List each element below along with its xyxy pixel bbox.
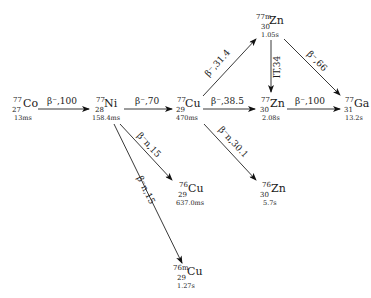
- element-symbol: Zn: [271, 182, 286, 195]
- nuclide-cu76: 76 Cu 29 637.0ms: [175, 181, 215, 211]
- mass-number: 77: [13, 96, 22, 104]
- atomic-number: 30: [260, 106, 269, 114]
- nuclide-zn77: 77 Zn 30 2.08s: [257, 96, 297, 126]
- label-cu77-zn77: β⁻,38.5: [211, 96, 244, 106]
- half-life: 2.08s: [262, 114, 280, 122]
- atomic-number: 28: [95, 106, 104, 114]
- half-life: 13ms: [14, 114, 32, 122]
- nuclide-ga77: 77 Ga 31 13.2s: [342, 96, 371, 126]
- label-zn77-ga77: β⁻,100: [295, 96, 325, 106]
- half-life: 470ms: [176, 114, 198, 122]
- atomic-number: 31: [344, 106, 353, 114]
- mass-number: 77: [261, 96, 270, 104]
- nuclide-ni77: 77 Ni 28 158.4ms: [92, 96, 132, 126]
- atomic-number: 29: [178, 191, 187, 199]
- element-symbol: Co: [23, 97, 38, 110]
- nuclide-cu77: 77 Cu 29 470ms: [174, 96, 214, 126]
- element-symbol: Zn: [270, 97, 285, 110]
- half-life: 637.0ms: [176, 199, 204, 207]
- element-symbol: Ni: [104, 97, 117, 110]
- arrow-zn77m-ga77: [284, 39, 340, 95]
- half-life: 5.7s: [263, 199, 277, 207]
- mass-number: 76: [262, 181, 271, 189]
- atomic-number: 29: [177, 274, 186, 282]
- half-life: 158.4ms: [92, 114, 120, 122]
- nuclide-zn77m: 77m Zn 30 1.05s: [256, 13, 296, 43]
- atomic-number: 29: [176, 106, 185, 114]
- element-symbol: Cu: [187, 265, 203, 278]
- element-symbol: Ga: [354, 97, 369, 110]
- half-life: 1.27s: [177, 282, 195, 290]
- label-ni77-cu77: β⁻,70: [135, 96, 159, 106]
- mass-number: 77: [345, 96, 354, 104]
- label-zn77m-zn77: IT,34: [272, 56, 282, 79]
- nuclide-cu76m: 76m Cu 29 1.27s: [171, 264, 211, 294]
- atomic-number: 30: [261, 23, 270, 31]
- atomic-number: 27: [12, 106, 21, 114]
- label-co77-ni77: β⁻,100: [47, 96, 77, 106]
- element-symbol: Zn: [269, 14, 284, 27]
- half-life: 13.2s: [345, 114, 363, 122]
- nuclide-co77: 77 Co 27 13ms: [11, 96, 51, 126]
- atomic-number: 30: [260, 191, 269, 199]
- decay-arrows: [0, 0, 371, 298]
- element-symbol: Cu: [185, 97, 201, 110]
- half-life: 1.05s: [261, 31, 279, 39]
- nuclide-zn76: 76 Zn 30 5.7s: [258, 181, 298, 211]
- element-symbol: Cu: [188, 182, 204, 195]
- mass-number: 76: [179, 181, 188, 189]
